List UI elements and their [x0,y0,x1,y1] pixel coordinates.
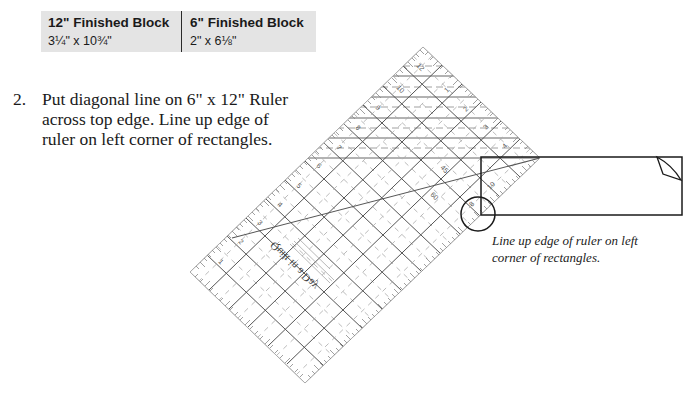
illustration-caption: Line up edge of ruler on left corner of … [492,232,638,266]
ruler-illustration: 12 10 9 8 7 6 5 4 3 2 1 1 2 3 4 45 60 10… [0,0,695,398]
caption-line: corner of rectangles. [492,249,638,266]
caption-line: Line up edge of ruler on left [492,232,638,249]
corner-curl-icon [657,157,681,180]
